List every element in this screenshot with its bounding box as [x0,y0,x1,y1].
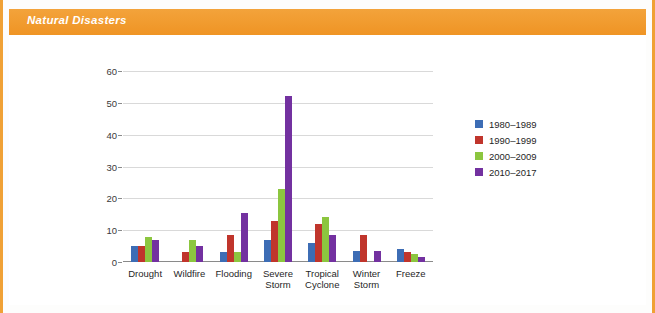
x-axis-tick-label: Severe Storm [263,268,293,290]
x-axis-tick-label: Tropical Cyclone [305,268,339,290]
y-axis-tick-mark [118,198,122,199]
legend-swatch-2010-2017 [475,168,483,176]
y-axis-tick-mark [118,230,122,231]
bar-group: Winter Storm [344,71,388,262]
x-axis-tick-label: Freeze [396,268,426,279]
bar [404,252,411,262]
bar-group: Wildfire [167,71,211,262]
y-axis-tick-mark [118,71,122,72]
bar-chart: 0102030405060 DroughtWildfireFloodingSev… [9,35,646,305]
legend-swatch-2000-2009 [475,152,483,160]
legend-item: 2010–2017 [475,164,537,180]
bar [145,237,152,262]
plot-area: 0102030405060 DroughtWildfireFloodingSev… [123,71,433,262]
legend-item-label: 2010–2017 [489,167,537,178]
bar [374,251,381,262]
bar-group: Flooding [212,71,256,262]
y-axis-tick-label: 20 [106,193,117,204]
x-axis-tick-label: Flooding [215,268,251,279]
bar [308,243,315,262]
bar [397,249,404,262]
figure-root: Natural Disasters 0102030405060 DroughtW… [0,0,655,313]
legend-item-label: 2000–2009 [489,151,537,162]
bar [271,221,278,262]
legend-item: 1990–1999 [475,132,537,148]
bar [196,246,203,262]
bar [285,96,292,262]
bar [152,240,159,262]
chart-legend: 1980–19891990–19992000–20092010–2017 [475,116,537,180]
bar-group: Drought [123,71,167,262]
bar [182,252,189,262]
bar-group: Freeze [389,71,433,262]
bar [138,246,145,262]
bar [278,189,285,262]
y-axis-tick-label: 60 [106,66,117,77]
bar [241,213,248,262]
bar [220,252,227,262]
y-axis-tick-mark [118,135,122,136]
x-axis-tick-label: Winter Storm [353,268,380,290]
bar [189,240,196,262]
bar [322,217,329,262]
bar [131,246,138,262]
page-title: Natural Disasters [27,14,127,26]
bar-group: Tropical Cyclone [300,71,344,262]
y-axis-tick-mark [118,167,122,168]
y-axis-tick-mark [118,262,122,263]
legend-swatch-1990-1999 [475,136,483,144]
bar [411,254,418,262]
legend-swatch-1980-1989 [475,120,483,128]
bar [264,240,271,262]
bar [227,235,234,262]
x-axis-tick-label: Drought [128,268,162,279]
bar [329,235,336,262]
bar [360,235,367,262]
bar-group: Severe Storm [256,71,300,262]
y-axis-tick-label: 30 [106,161,117,172]
y-axis-tick-label: 50 [106,97,117,108]
y-axis-tick-label: 40 [106,129,117,140]
legend-item-label: 1990–1999 [489,135,537,146]
bar [315,224,322,262]
left-orange-rail [0,0,3,313]
y-axis-tick-mark [118,103,122,104]
legend-item-label: 1980–1989 [489,119,537,130]
header-bar: Natural Disasters [9,9,646,35]
bar [418,257,425,262]
bar [353,251,360,262]
chart-panel: 0102030405060 DroughtWildfireFloodingSev… [9,35,646,305]
x-axis-tick-label: Wildfire [174,268,206,279]
y-axis-tick-label: 0 [112,257,117,268]
bar [234,252,241,262]
legend-item: 2000–2009 [475,148,537,164]
bar-groups: DroughtWildfireFloodingSevere StormTropi… [123,71,433,262]
legend-item: 1980–1989 [475,116,537,132]
y-axis-tick-label: 10 [106,225,117,236]
